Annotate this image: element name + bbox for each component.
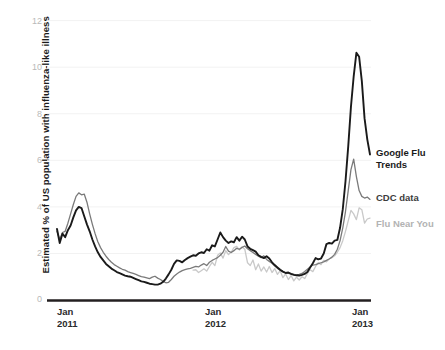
x-tick-2013-month: Jan [352, 306, 373, 318]
series-lines [57, 53, 370, 285]
x-tick-2012: Jan 2012 [205, 306, 226, 330]
x-tick-2013: Jan 2013 [352, 306, 373, 330]
plot-area [0, 0, 445, 350]
series-line-google-flu-trends [57, 53, 370, 285]
legend-label-cdc-data: CDC data [376, 192, 419, 204]
legend-label-flu-near-you: Flu Near You [376, 218, 434, 230]
gridlines [47, 21, 371, 254]
x-tick-2012-year: 2012 [205, 318, 226, 330]
x-tick-2012-month: Jan [205, 306, 226, 318]
flu-trends-chart: Estimated % of US population with influe… [0, 0, 445, 350]
x-tick-2011-year: 2011 [57, 318, 78, 330]
legend-label-google-flu-trends: Google Flu Trends [376, 147, 426, 170]
x-tick-2013-year: 2013 [352, 318, 373, 330]
x-tick-2011: Jan 2011 [57, 306, 78, 330]
x-tick-2011-month: Jan [57, 306, 78, 318]
